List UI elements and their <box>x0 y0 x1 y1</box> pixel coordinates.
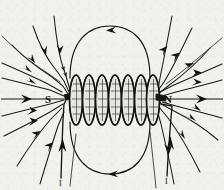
coil-turn-1 <box>70 75 83 125</box>
coil-turn-5 <box>122 75 135 125</box>
coil-turn-4 <box>109 75 122 125</box>
field-diagram-canvas: I I <box>0 0 224 190</box>
current-label-left: I <box>59 179 62 188</box>
coil-turn-6 <box>135 75 148 125</box>
current-label-right: I <box>165 177 168 186</box>
solenoid-field-diagram: I I <box>0 0 224 190</box>
pole-label-south: S <box>45 93 51 105</box>
coil-turn-3 <box>96 75 109 125</box>
coil-turn-2 <box>83 75 96 125</box>
pole-label-north: N <box>164 93 172 105</box>
solenoid-coil <box>64 75 166 125</box>
